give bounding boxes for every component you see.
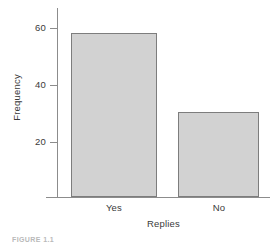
y-tick-mark-20 xyxy=(50,142,58,143)
y-tick-mark-40 xyxy=(50,85,58,86)
x-axis-line xyxy=(46,197,270,198)
bar-no xyxy=(178,112,259,197)
y-axis-title: Frequency xyxy=(11,50,22,146)
x-tick-label-no: No xyxy=(178,202,260,214)
bar-chart-figure: 60 40 20 Yes No Replies Frequency FIGURE… xyxy=(0,0,278,243)
x-tick-label-yes: Yes xyxy=(74,202,154,214)
plot-area: 60 40 20 Yes No Replies Frequency xyxy=(0,0,278,243)
y-tick-label-60: 60 xyxy=(16,23,46,33)
figure-caption: FIGURE 1.1 xyxy=(12,236,54,242)
x-axis-title: Replies xyxy=(57,218,270,229)
y-tick-mark-60 xyxy=(50,28,58,29)
y-axis-line xyxy=(57,8,58,198)
bar-yes xyxy=(71,33,157,197)
